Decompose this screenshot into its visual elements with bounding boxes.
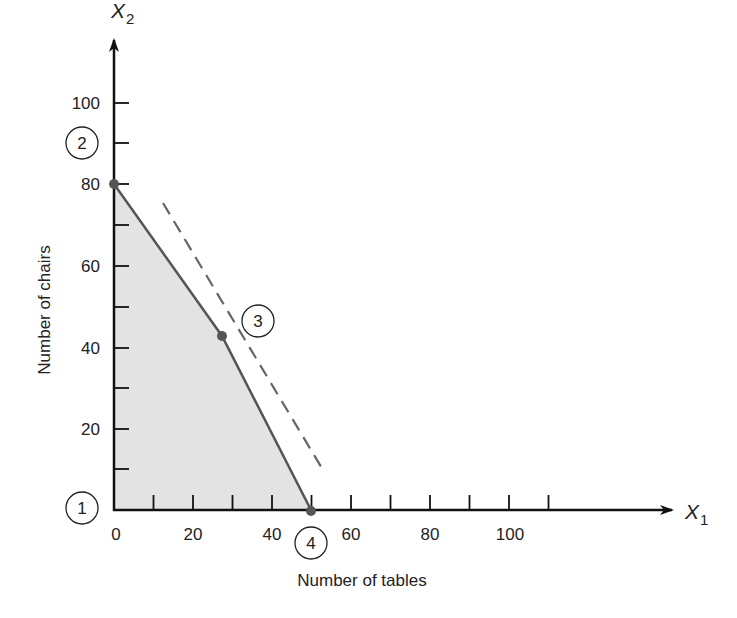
corner-point-3-marker [217, 331, 227, 341]
x-tick-label-80: 80 [421, 525, 440, 544]
y-tick-label-60: 60 [81, 257, 100, 276]
feasible-region [114, 184, 311, 510]
x-tick-label-60: 60 [342, 525, 361, 544]
y-tick-label-80: 80 [81, 175, 100, 194]
svg-text:3: 3 [253, 312, 262, 331]
svg-text:4: 4 [306, 534, 315, 553]
corner-label-1: 1 [66, 492, 98, 524]
svg-text:2: 2 [77, 134, 86, 153]
corner-point-2-marker [109, 179, 119, 189]
corner-label-3: 3 [242, 305, 274, 337]
x-variable-label: X1 [684, 500, 708, 528]
y-tick-label-40: 40 [81, 339, 100, 358]
x-tick-label-0: 0 [111, 525, 120, 544]
y-axis-title: Number of chairs [35, 245, 54, 374]
corner-point-4-marker [306, 506, 316, 516]
y-tick-label-20: 20 [81, 420, 100, 439]
x-tick-label-40: 40 [263, 525, 282, 544]
x-axis-title: Number of tables [297, 571, 426, 590]
corner-label-4: 4 [295, 527, 327, 559]
y-tick-label-100: 100 [72, 94, 100, 113]
svg-text:1: 1 [77, 499, 86, 518]
x-tick-label-100: 100 [496, 525, 524, 544]
lp-graph: 20 40 60 80 100 0 20 40 60 80 100 Number… [0, 0, 737, 618]
x-tick-label-20: 20 [184, 525, 203, 544]
y-variable-label: X2 [110, 0, 134, 27]
corner-label-2: 2 [66, 127, 98, 159]
